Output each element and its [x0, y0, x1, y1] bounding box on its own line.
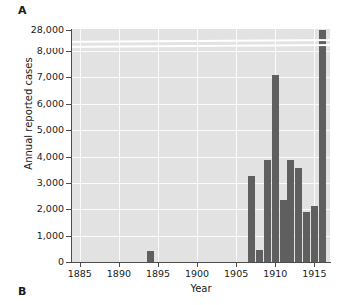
bar-1915 — [311, 206, 318, 262]
bar-1914 — [303, 212, 310, 262]
y-tick-label-2000: 2,000 — [2, 204, 64, 214]
gridline-x-1890 — [119, 29, 120, 262]
bar-1910 — [272, 75, 279, 262]
gridline-x-1905 — [236, 29, 237, 262]
x-tick-label-1910: 1910 — [255, 269, 295, 279]
x-tick-label-1885: 1885 — [60, 269, 100, 279]
x-tick-1900 — [197, 262, 198, 267]
x-tick-label-1900: 1900 — [177, 269, 217, 279]
bar-1907 — [248, 176, 255, 262]
gridline-y-5000 — [72, 130, 330, 131]
bar-1913 — [295, 168, 302, 262]
gridline-x-1900 — [197, 29, 198, 262]
y-tick-28000 — [66, 30, 71, 31]
y-tick-8000 — [66, 51, 71, 52]
y-tick-4000 — [66, 157, 71, 158]
x-tick-label-1895: 1895 — [138, 269, 178, 279]
x-axis-title: Year — [71, 283, 331, 294]
y-tick-0 — [66, 262, 71, 263]
y-tick-6000 — [66, 104, 71, 105]
bar-1912 — [287, 160, 294, 262]
x-tick-1895 — [158, 262, 159, 267]
x-tick-label-1915: 1915 — [294, 269, 334, 279]
x-tick-label-1905: 1905 — [216, 269, 256, 279]
y-tick-5000 — [66, 130, 71, 131]
bar-1894 — [147, 251, 154, 262]
y-axis-line — [71, 29, 72, 263]
bar-1916 — [319, 30, 326, 262]
y-axis-title: Annual reported cases — [23, 34, 34, 194]
y-tick-3000 — [66, 183, 71, 184]
y-tick-2000 — [66, 209, 71, 210]
y-tick-7000 — [66, 77, 71, 78]
gridline-x-1885 — [80, 29, 81, 262]
y-tick-label-1000: 1,000 — [2, 231, 64, 241]
bar-1911 — [280, 200, 287, 262]
gridline-y-7000 — [72, 77, 330, 78]
y-tick-1000 — [66, 236, 71, 237]
x-tick-1885 — [80, 262, 81, 267]
gridline-y-6000 — [72, 104, 330, 105]
gridline-y-8000 — [72, 51, 330, 52]
gridline-y-4000 — [72, 157, 330, 158]
x-tick-1905 — [236, 262, 237, 267]
chart-plot-area — [72, 29, 330, 262]
x-tick-1890 — [119, 262, 120, 267]
bar-1908 — [256, 250, 263, 262]
x-axis-line — [71, 262, 331, 263]
x-tick-label-1890: 1890 — [99, 269, 139, 279]
x-tick-1910 — [275, 262, 276, 267]
bar-1909 — [264, 160, 271, 262]
y-tick-label-0: 0 — [2, 257, 64, 267]
figure-panel-a: A B 01,0002,0003,0004,0005,0006,0007,000… — [0, 0, 341, 305]
gridline-x-1895 — [158, 29, 159, 262]
x-tick-1915 — [314, 262, 315, 267]
